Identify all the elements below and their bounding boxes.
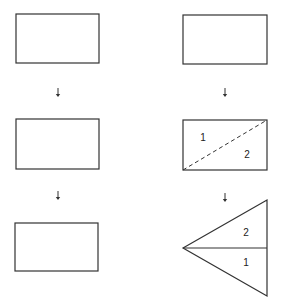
region-label-2: 2: [244, 149, 250, 160]
right-rectangle-1: [183, 15, 267, 64]
down-arrow-icon: [56, 88, 60, 97]
dashed-fold-line: [183, 120, 267, 170]
left-rectangle-1: [16, 14, 99, 63]
region-label-1: 1: [200, 132, 206, 143]
right-column: 1221: [183, 15, 267, 296]
left-column: [15, 14, 99, 271]
down-arrow-icon: [223, 88, 227, 97]
arrow-head: [56, 197, 60, 200]
left-rectangle-2: [16, 119, 99, 169]
down-arrow-icon: [56, 191, 60, 200]
left-rectangle-3: [15, 223, 98, 271]
triangle-label-1: 1: [243, 257, 249, 268]
arrow-head: [223, 199, 227, 202]
folding-diagram: 1221: [0, 0, 283, 307]
down-arrow-icon: [223, 193, 227, 202]
triangle-label-2: 2: [243, 227, 249, 238]
arrow-head: [56, 94, 60, 97]
arrow-head: [223, 94, 227, 97]
